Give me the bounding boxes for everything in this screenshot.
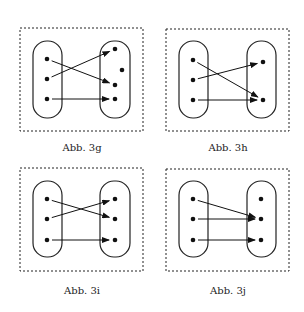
element-dot-3i xyxy=(113,238,118,243)
element-dot-3i xyxy=(113,217,118,222)
element-dot-3j xyxy=(191,197,196,202)
diagram-canvas xyxy=(0,0,304,312)
element-dot-3h xyxy=(261,60,266,65)
caption-3g: Abb. 3g xyxy=(32,142,132,153)
codomain-set-3h xyxy=(247,41,276,118)
mapping-arrow-3h xyxy=(197,62,257,97)
caption-3h: Abb. 3h xyxy=(178,142,278,153)
element-dot-3i xyxy=(45,238,50,243)
element-dot-3g xyxy=(113,83,118,88)
element-dot-3j xyxy=(259,238,264,243)
element-dot-3i xyxy=(113,197,118,202)
caption-3i: Abb. 3i xyxy=(32,285,132,296)
element-dot-3g xyxy=(45,97,50,102)
mapping-arrow-3h xyxy=(198,63,257,78)
element-dot-3h xyxy=(191,78,196,83)
element-dot-3h xyxy=(191,58,196,63)
element-dot-3g xyxy=(45,57,50,62)
element-dot-3j xyxy=(191,238,196,243)
element-dot-3j xyxy=(259,197,264,202)
element-dot-3h xyxy=(191,98,196,103)
element-dot-3g xyxy=(45,77,50,82)
caption-3j: Abb. 3j xyxy=(178,285,278,296)
element-dot-3j xyxy=(259,217,264,222)
element-dot-3j xyxy=(191,217,196,222)
element-dot-3g xyxy=(113,97,118,102)
element-dot-3h xyxy=(261,98,266,103)
element-dot-3g xyxy=(113,47,118,52)
codomain-set-3g xyxy=(100,41,130,118)
element-dot-3g xyxy=(120,68,125,73)
element-dot-3i xyxy=(45,217,50,222)
element-dot-3i xyxy=(45,197,50,202)
